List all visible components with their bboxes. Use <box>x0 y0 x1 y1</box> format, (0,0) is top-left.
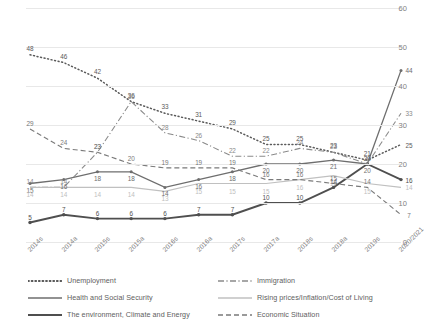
data-label: 28 <box>161 123 168 130</box>
legend-line-icon <box>218 294 252 302</box>
data-label: 14 <box>27 191 34 198</box>
data-label: 7 <box>407 211 410 218</box>
series-marker <box>399 178 402 181</box>
data-label: 42 <box>94 68 101 75</box>
series-marker <box>96 170 99 173</box>
legend-item[interactable]: Economic Situation <box>218 306 373 323</box>
data-label: 10 <box>263 194 270 201</box>
data-label: 16 <box>296 183 303 190</box>
data-label: 25 <box>406 141 413 148</box>
y-tick-label: 50 <box>389 43 407 52</box>
data-label: 31 <box>195 111 202 118</box>
legend-label: Immigration <box>257 276 295 285</box>
data-label: 7 <box>231 205 234 212</box>
data-label: 24 <box>60 139 67 146</box>
legend-column-right: ImmigrationRising prices/Inflation/Cost … <box>218 272 373 323</box>
series-marker <box>400 69 403 72</box>
series-marker <box>28 221 31 224</box>
legend-item[interactable]: Immigration <box>218 272 373 289</box>
data-label: 14 <box>60 178 67 185</box>
data-label: 6 <box>163 209 166 216</box>
data-label: 23 <box>94 143 101 150</box>
series-marker <box>197 213 200 216</box>
data-label: 26 <box>195 131 202 138</box>
legend: UnemploymentHealth and Social SecurityTh… <box>0 272 407 324</box>
series-marker <box>96 217 99 220</box>
gridline <box>26 86 401 87</box>
y-tick-label: 40 <box>389 82 407 91</box>
data-label: 24 <box>296 139 303 146</box>
series-line <box>30 70 401 187</box>
series-marker <box>62 213 65 216</box>
legend-line-icon <box>28 277 62 285</box>
data-label: 5 <box>28 213 31 220</box>
legend-label: Unemployment <box>67 276 116 285</box>
legend-line-icon <box>218 311 252 319</box>
data-label: 14 <box>128 191 135 198</box>
data-label: 16 <box>263 170 270 177</box>
data-label: 16 <box>296 170 303 177</box>
series-marker <box>332 186 335 189</box>
legend-column-left: UnemploymentHealth and Social SecurityTh… <box>28 272 190 323</box>
data-label: 16 <box>406 176 413 183</box>
series-line <box>30 55 401 160</box>
legend-line-icon <box>218 277 252 285</box>
series-line <box>30 164 401 223</box>
data-label: 19 <box>195 158 202 165</box>
data-label: 20 <box>128 155 135 162</box>
data-label: 23 <box>330 143 337 150</box>
data-label: 22 <box>229 147 236 154</box>
legend-item[interactable]: Unemployment <box>28 272 190 289</box>
data-label: 7 <box>62 205 65 212</box>
data-label: 33 <box>406 110 413 117</box>
data-label: 20 <box>364 155 371 162</box>
gridline <box>26 164 401 165</box>
data-label: 18 <box>128 174 135 181</box>
plot-area: 0102030405060 48464236333129252523212515… <box>0 0 407 250</box>
legend-label: The environment, Climate and Energy <box>67 310 190 319</box>
data-label: 46 <box>60 52 67 59</box>
series-marker <box>129 217 132 220</box>
series-marker <box>231 213 234 216</box>
data-label: 15 <box>364 187 371 194</box>
legend-label: Economic Situation <box>257 310 319 319</box>
series-marker <box>332 159 335 162</box>
legend-label: Health and Social Security <box>67 293 153 302</box>
gridline <box>26 203 401 204</box>
data-label: 36 <box>128 92 135 99</box>
legend-item[interactable]: The environment, Climate and Energy <box>28 306 190 323</box>
gridline <box>26 8 401 9</box>
series-marker <box>197 178 200 181</box>
data-label: 21 <box>330 163 337 170</box>
series-marker <box>163 186 166 189</box>
y-tick-label: 20 <box>389 160 407 169</box>
series-marker <box>130 170 133 173</box>
data-label: 6 <box>96 209 99 216</box>
gridline <box>26 47 401 48</box>
data-label: 7 <box>197 205 200 212</box>
data-label: 10 <box>296 194 303 201</box>
data-label: 15 <box>229 187 236 194</box>
legend-item[interactable]: Health and Social Security <box>28 289 190 306</box>
data-label: 25 <box>263 134 270 141</box>
y-tick-label: 10 <box>389 199 407 208</box>
data-label: 15 <box>195 187 202 194</box>
data-label: 14 <box>364 178 371 185</box>
data-label: 18 <box>229 174 236 181</box>
data-label: 13 <box>161 195 168 202</box>
data-label: 6 <box>129 209 132 216</box>
y-tick-label: 30 <box>389 121 407 130</box>
data-label: 18 <box>94 174 101 181</box>
data-label: 19 <box>229 158 236 165</box>
legend-item[interactable]: Rising prices/Inflation/Cost of Living <box>218 289 373 306</box>
legend-line-icon <box>28 311 62 319</box>
data-label: 19 <box>161 158 168 165</box>
data-label: 44 <box>406 67 413 74</box>
series-line <box>30 176 401 192</box>
series-line <box>30 129 401 215</box>
legend-line-icon <box>28 294 62 302</box>
data-label: 14 <box>94 191 101 198</box>
gridline <box>26 125 401 126</box>
data-label: 14 <box>60 191 67 198</box>
data-label: 29 <box>27 119 34 126</box>
